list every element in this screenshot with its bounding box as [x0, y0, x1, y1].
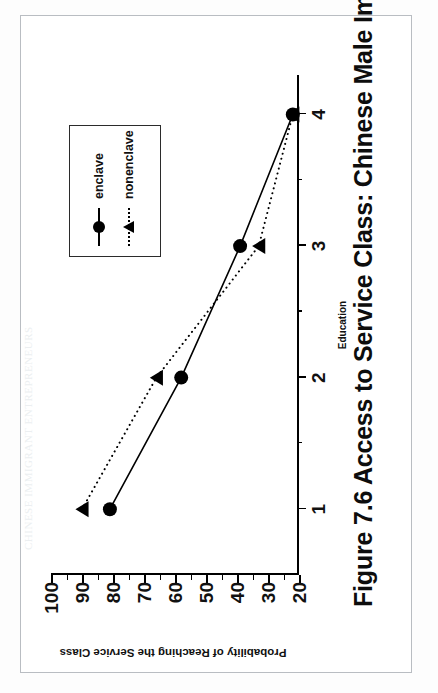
value-tick-label: 20 — [290, 582, 309, 603]
filled-circle-icon — [93, 221, 105, 233]
legend-label-enclave: enclave — [92, 153, 106, 199]
value-tick-label: 60 — [166, 582, 185, 603]
value-tick-label: 80 — [104, 582, 123, 603]
value-tick-minor — [284, 575, 285, 580]
category-tick-label: 3 — [309, 240, 328, 251]
legend-label-nonenclave: nonenclave — [122, 130, 136, 199]
legend-sample-nonenclave — [122, 208, 136, 246]
category-tick-label: 1 — [309, 503, 328, 514]
filled-triangle-icon — [123, 221, 134, 233]
legend-sample-enclave — [92, 208, 106, 246]
scanned-page: CHINESE IMMIGRANT ENTREPRENEURS 10090807… — [0, 0, 438, 693]
value-tick-label: 90 — [73, 582, 92, 603]
legend: enclave nonenclave — [69, 125, 161, 257]
value-tick-minor — [129, 575, 130, 580]
data-point-nonenclave — [75, 501, 88, 517]
plot-area: 1009080706050403020 1234 Probability of … — [51, 75, 299, 575]
data-point-nonenclave — [150, 369, 163, 385]
legend-entry-nonenclave: nonenclave — [122, 130, 136, 246]
category-tick-label: 2 — [309, 372, 328, 383]
figure-caption: Figure 7.6 Access to Service Class: Chin… — [349, 47, 378, 607]
value-tick-label: 70 — [135, 582, 154, 603]
value-tick-minor — [222, 575, 223, 580]
value-tick-minor — [67, 575, 68, 580]
legend-entry-enclave: enclave — [92, 153, 106, 246]
data-point-enclave — [174, 370, 188, 384]
value-tick-label: 30 — [259, 582, 278, 603]
value-tick-minor — [191, 575, 192, 580]
data-point-enclave — [233, 239, 247, 253]
value-axis-title: Probability of Reaching the Service Clas… — [0, 647, 423, 659]
figure: 1009080706050403020 1234 Probability of … — [33, 27, 405, 667]
figure-stage: 1009080706050403020 1234 Probability of … — [33, 27, 405, 667]
value-tick-label: 40 — [228, 582, 247, 603]
category-tick-label: 4 — [309, 109, 328, 120]
value-axis-title-wrapper: Probability of Reaching the Service Clas… — [51, 652, 299, 653]
value-tick-label: 50 — [197, 582, 216, 603]
value-tick-minor — [253, 575, 254, 580]
data-point-enclave — [103, 502, 117, 516]
value-tick-minor — [160, 575, 161, 580]
value-tick-minor — [98, 575, 99, 580]
category-axis-title: Education — [337, 75, 348, 575]
value-tick-label: 100 — [42, 582, 61, 614]
